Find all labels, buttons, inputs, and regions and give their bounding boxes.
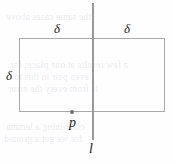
label-delta-top-left: δ	[54, 21, 60, 37]
vertical-line-icon	[92, 3, 94, 140]
ghost-text-line: for we get a ground	[4, 134, 82, 144]
geometry-figure: the same cases above a few results at on…	[0, 0, 174, 164]
label-delta-top-right: δ	[124, 21, 130, 37]
label-point-p: p	[69, 115, 76, 131]
label-delta-left: δ	[6, 68, 12, 84]
ghost-text-line: the same cases above	[6, 12, 91, 22]
dot-marker-icon	[70, 110, 74, 114]
label-line-l: l	[89, 141, 93, 157]
